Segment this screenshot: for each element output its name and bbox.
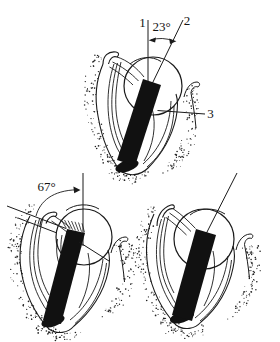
bone-crest-ridge	[236, 234, 253, 279]
stipple-dots	[25, 204, 35, 214]
stipple-dots	[227, 245, 261, 319]
bone-crest-wing	[103, 52, 119, 64]
stipple-dots	[116, 171, 149, 184]
instrument-axis-line	[206, 173, 237, 234]
angle-arrowhead-left	[149, 37, 156, 42]
bone-crest-wing	[157, 205, 174, 226]
angle-arrowhead-right	[169, 39, 176, 44]
label-angle-23: 23°	[152, 19, 170, 34]
stipple-dots	[92, 55, 99, 63]
stipple-dots	[178, 324, 204, 337]
bone-crest-ridge	[184, 82, 200, 128]
orifice-converging-lines	[166, 209, 196, 235]
exit-line	[79, 242, 109, 261]
instrument-post	[172, 229, 216, 321]
stipple-dots	[162, 95, 197, 174]
angle-arc-arrowhead	[73, 187, 80, 194]
label-line-1: 1	[139, 15, 146, 30]
label-line-2: 2	[184, 13, 191, 28]
figure-canvas: 1 2 23° 3	[0, 0, 280, 342]
endodontic-angle-diagram: 1 2 23° 3	[0, 0, 280, 342]
instrument-post	[43, 229, 85, 324]
diagram-top: 1 2 23° 3	[96, 13, 214, 175]
label-marker-3: 3	[207, 106, 214, 121]
diagram-bottom-left: 67°	[7, 173, 128, 333]
diagram-bottom-right	[147, 173, 253, 329]
stipple-dots	[147, 207, 155, 213]
label-angle-67: 67°	[37, 179, 55, 194]
